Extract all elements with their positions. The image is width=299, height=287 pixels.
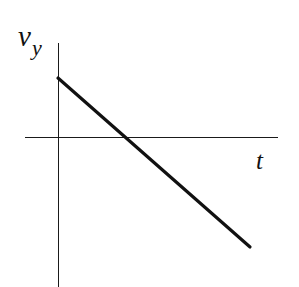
- plot-canvas: [0, 0, 299, 287]
- velocity-time-figure: vy t: [0, 0, 299, 287]
- velocity-line-series: [58, 78, 250, 247]
- y-axis-label-symbol: v: [18, 20, 31, 52]
- y-axis-label: vy: [18, 22, 41, 51]
- x-axis-label: t: [256, 148, 263, 173]
- y-axis-label-subscript: y: [32, 35, 42, 60]
